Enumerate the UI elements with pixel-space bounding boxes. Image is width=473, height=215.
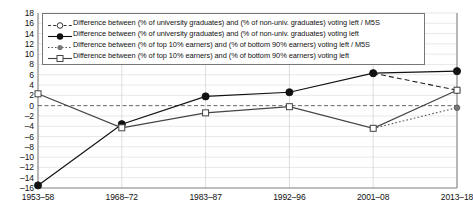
filled-circle-solid-icon bbox=[47, 28, 73, 39]
filled-circle-marker bbox=[286, 89, 293, 96]
legend-item: Difference between (% of top 10% earners… bbox=[47, 50, 420, 61]
series-line bbox=[373, 108, 457, 129]
open-square-marker bbox=[454, 87, 460, 93]
series-1 bbox=[370, 70, 460, 93]
open-square-marker bbox=[119, 125, 125, 131]
open-square-marker bbox=[286, 104, 292, 110]
legend-item-label: Difference between (% of top 10% earners… bbox=[73, 39, 370, 50]
series-line bbox=[38, 90, 457, 128]
gray-dot-marker bbox=[454, 105, 460, 111]
open-square-marker bbox=[203, 110, 209, 116]
filled-circle-marker bbox=[34, 182, 41, 189]
legend-item-label: Difference between (% of university grad… bbox=[73, 17, 380, 28]
open-square-marker bbox=[35, 91, 41, 97]
legend-item-label: Difference between (% of top 10% earners… bbox=[73, 50, 349, 61]
legend-item: Difference between (% of university grad… bbox=[47, 28, 420, 39]
legend-item: Difference between (% of top 10% earners… bbox=[47, 39, 420, 50]
open-square-solid-icon bbox=[47, 50, 73, 61]
open-square-marker bbox=[370, 125, 376, 131]
series-2 bbox=[34, 68, 460, 189]
series-line bbox=[373, 73, 457, 90]
gray-dot-dotted-icon bbox=[47, 39, 73, 50]
chart-legend: Difference between (% of university grad… bbox=[42, 13, 425, 65]
legend-item: Difference between (% of university grad… bbox=[47, 17, 420, 28]
open-circle-dashed-icon bbox=[47, 17, 73, 28]
filled-circle-marker bbox=[202, 93, 209, 100]
filled-circle-marker bbox=[370, 70, 377, 77]
legend-item-label: Difference between (% of university grad… bbox=[73, 28, 359, 39]
series-line bbox=[38, 71, 457, 185]
filled-circle-marker bbox=[453, 68, 460, 75]
